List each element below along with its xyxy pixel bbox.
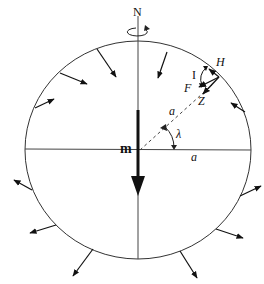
vertical-label: Z [198,94,205,108]
radius-axis-label: a [191,150,197,164]
moment-label: m [120,141,132,156]
magnetic-moment-arrow-icon [131,110,145,196]
north-label: N [133,5,142,19]
rotation-arrow-icon [127,25,150,36]
inward-field-arrows [35,49,245,112]
geomagnetic-dipole-diagram: N m a a λ H I F Z [0,0,264,284]
vertical-component-arrow-icon [203,77,219,94]
total-field-label: F [183,81,192,95]
inclination-arc-icon [201,68,206,85]
latitude-label: λ [175,127,181,141]
radius-inner-label: a [169,104,175,118]
horizontal-label: H [215,55,226,69]
inclination-label: I [192,68,196,82]
field-vector-group [199,66,219,94]
latitude-arc-icon [160,124,177,150]
